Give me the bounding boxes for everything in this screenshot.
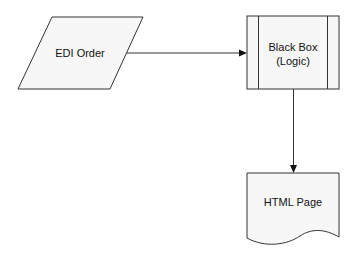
node-label-line2: (Logic) [276, 55, 310, 67]
document-shape [247, 173, 339, 244]
arrowhead-down-icon [290, 165, 297, 173]
node-label-line1: Black Box [269, 41, 318, 53]
node-html-page[interactable]: HTML Page [247, 173, 339, 244]
node-label: EDI Order [55, 47, 105, 59]
flowchart-canvas: EDI Order Black Box (Logic) HTML Page [0, 0, 359, 261]
edge-blackbox-to-html [290, 89, 297, 173]
node-edi-order[interactable]: EDI Order [18, 17, 143, 89]
node-label: HTML Page [264, 196, 322, 208]
arrowhead-right-icon [239, 50, 247, 57]
node-black-box[interactable]: Black Box (Logic) [247, 16, 339, 89]
edge-edi-to-blackbox [127, 50, 247, 57]
